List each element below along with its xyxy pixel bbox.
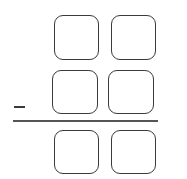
difference-tens-box[interactable]: [54, 130, 99, 174]
minus-sign-icon: [14, 106, 25, 108]
answer-divider-line: [13, 120, 158, 122]
subtrahend-tens-box[interactable]: [52, 70, 98, 114]
difference-ones-box[interactable]: [111, 130, 156, 174]
subtrahend-ones-box[interactable]: [108, 70, 154, 114]
minuend-ones-box[interactable]: [111, 15, 156, 60]
minuend-tens-box[interactable]: [54, 15, 99, 60]
